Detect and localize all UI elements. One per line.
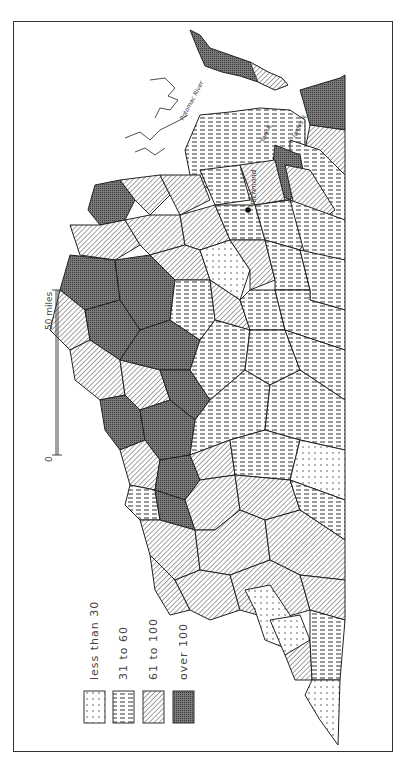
scale-start-label: 0 [44, 456, 54, 462]
legend-swatch-dashes [113, 691, 134, 723]
legend-label-31-to-60: 31 to 60 [117, 626, 130, 680]
legend-label-61-to-100: 61 to 100 [147, 618, 160, 680]
scale-end-label: 50 miles [44, 292, 54, 330]
richmond-marker-icon [245, 207, 251, 213]
county-map [0, 0, 411, 764]
legend-swatch-dark [173, 691, 194, 723]
legend-label-over-100: over 100 [177, 623, 190, 680]
richmond-label: Richmond [250, 170, 258, 205]
legend-swatches [84, 691, 194, 723]
eastern-shore [190, 30, 288, 90]
legend-label-less-than-30: less than 30 [88, 601, 101, 680]
legend-swatch-hatch [143, 691, 164, 723]
legend-swatch-dots [84, 691, 105, 723]
